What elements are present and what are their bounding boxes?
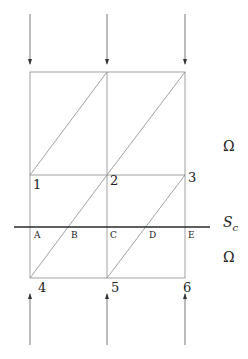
point-label-e: E xyxy=(188,230,195,240)
point-label-d: D xyxy=(149,230,156,240)
node-label-3: 3 xyxy=(188,170,196,185)
region-label-lower: Ω xyxy=(223,249,235,265)
bottom-load-arrows xyxy=(28,293,187,345)
cut-surface-label: Sc xyxy=(223,214,239,233)
arrowhead-icon xyxy=(28,293,32,299)
point-label-c: C xyxy=(110,230,117,240)
point-label-a: A xyxy=(33,230,41,240)
node-label-6: 6 xyxy=(183,280,191,295)
mesh-diagonal xyxy=(30,72,107,175)
point-label-b: B xyxy=(71,230,78,240)
mesh-diagram: 1 2 3 4 5 6 A B C D E Ω Sc Ω xyxy=(0,0,248,359)
arrowhead-icon xyxy=(28,59,32,65)
node-label-2: 2 xyxy=(110,173,118,188)
arrowhead-icon xyxy=(183,59,187,65)
mesh xyxy=(30,72,185,278)
node-label-5: 5 xyxy=(111,280,119,295)
node-label-4: 4 xyxy=(38,280,46,295)
top-load-arrows xyxy=(28,14,187,65)
arrowhead-icon xyxy=(105,293,109,299)
node-label-1: 1 xyxy=(33,177,41,192)
arrowhead-icon xyxy=(105,59,109,65)
region-label-upper: Ω xyxy=(223,138,235,154)
mesh-diagonal xyxy=(107,72,185,175)
